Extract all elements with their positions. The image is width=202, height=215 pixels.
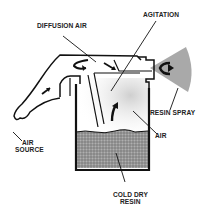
diffusion-swirl-arrowhead-icon — [82, 65, 86, 71]
label-diffusion-air: DIFFUSION AIR — [37, 22, 87, 29]
cold-dry-resin — [76, 130, 148, 168]
diffusion-baffle — [114, 60, 152, 71]
label-air-source-line2: SOURCE — [15, 146, 44, 153]
label-air-source-line1: AIR — [22, 139, 34, 146]
air-space — [78, 78, 148, 136]
resin-spray-diagram: DIFFUSION AIR AGITATION RESIN SPRAY AIR … — [0, 0, 202, 215]
diffusion-swirl-arrow — [74, 60, 88, 69]
label-cold-dry-resin-line1: COLD DRY — [113, 191, 148, 198]
air-source-hose — [14, 80, 60, 120]
label-air: AIR — [155, 132, 167, 139]
leader-resin-spray — [170, 88, 178, 110]
label-agitation: AGITATION — [143, 11, 179, 18]
leader-diffusion-air — [63, 36, 96, 62]
leader-air-source — [13, 132, 22, 141]
label-cold-dry-resin-line2: RESIN — [120, 198, 141, 205]
label-resin-spray: RESIN SPRAY — [150, 109, 196, 116]
